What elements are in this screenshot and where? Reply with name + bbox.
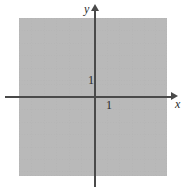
y-axis-arrow-icon bbox=[91, 4, 99, 11]
grid-hline bbox=[19, 147, 167, 148]
grid-hline bbox=[19, 134, 167, 135]
grid-hline bbox=[19, 159, 167, 160]
grid-hline bbox=[19, 18, 167, 19]
grid-hline bbox=[19, 30, 167, 31]
grid-hline bbox=[19, 43, 167, 44]
grid-hline bbox=[19, 171, 167, 172]
coordinate-plane-figure: y x 1 1 bbox=[0, 0, 185, 188]
y-axis-label: y bbox=[84, 3, 89, 15]
grid-hline bbox=[19, 122, 167, 123]
y-axis-line bbox=[94, 9, 96, 187]
grid-hline bbox=[19, 109, 167, 110]
x-axis-unit-label: 1 bbox=[106, 99, 112, 111]
grid-hline bbox=[19, 68, 167, 69]
x-axis-line bbox=[5, 96, 173, 98]
grid-hline bbox=[19, 175, 167, 176]
grid-hline bbox=[19, 55, 167, 56]
y-axis-unit-label: 1 bbox=[88, 74, 94, 86]
x-axis-label: x bbox=[175, 98, 180, 110]
